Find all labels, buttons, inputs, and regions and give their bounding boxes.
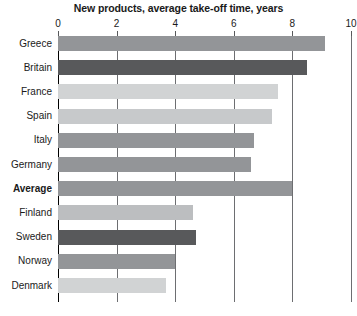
plot-area bbox=[58, 36, 351, 302]
bar bbox=[58, 36, 325, 51]
bar-chart: New products, average take-off time, yea… bbox=[0, 0, 357, 316]
x-tick-label: 6 bbox=[231, 18, 237, 29]
bar bbox=[58, 254, 175, 269]
category-label: Britain bbox=[0, 62, 52, 73]
bar bbox=[58, 181, 292, 196]
x-tick-label: 2 bbox=[114, 18, 120, 29]
category-label: Italy bbox=[0, 134, 52, 145]
bar bbox=[58, 278, 166, 293]
category-label: Norway bbox=[0, 255, 52, 266]
bar bbox=[58, 109, 272, 124]
category-label: Spain bbox=[0, 110, 52, 121]
bar bbox=[58, 205, 193, 220]
category-label: Average bbox=[0, 183, 52, 194]
chart-title: New products, average take-off time, yea… bbox=[0, 2, 357, 14]
bar bbox=[58, 230, 196, 245]
category-label: Denmark bbox=[0, 280, 52, 291]
bar bbox=[58, 60, 307, 75]
gridline bbox=[351, 36, 352, 302]
category-label: France bbox=[0, 86, 52, 97]
bar bbox=[58, 133, 254, 148]
bar bbox=[58, 84, 278, 99]
x-tick-label: 0 bbox=[55, 18, 61, 29]
category-label: Greece bbox=[0, 38, 52, 49]
category-label: Sweden bbox=[0, 231, 52, 242]
category-label: Germany bbox=[0, 159, 52, 170]
x-tick-label: 4 bbox=[172, 18, 178, 29]
x-tick-label: 8 bbox=[290, 18, 296, 29]
bar bbox=[58, 157, 251, 172]
gridline bbox=[292, 36, 293, 302]
x-tick-label: 10 bbox=[345, 18, 356, 29]
category-label: Finland bbox=[0, 207, 52, 218]
